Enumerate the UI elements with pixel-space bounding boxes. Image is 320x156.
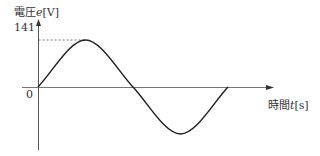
x-axis-arrow-icon	[266, 85, 274, 90]
sine-wave-plot	[0, 0, 320, 156]
y-axis-arrow-icon	[36, 19, 41, 26]
